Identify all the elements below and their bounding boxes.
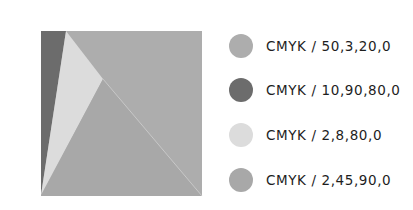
color-composition — [0, 0, 230, 210]
legend-label-4: CMYK / 2,45,90,0 — [266, 172, 391, 188]
legend-label-2: CMYK / 10,90,80,0 — [266, 82, 401, 98]
legend-item-1: CMYK / 50,3,20,0 — [229, 33, 391, 59]
color-swatch-3 — [229, 123, 253, 147]
legend-label-1: CMYK / 50,3,20,0 — [266, 38, 391, 54]
legend-label-3: CMYK / 2,8,80,0 — [266, 127, 382, 143]
color-swatch-2 — [229, 78, 253, 102]
color-swatch-4 — [229, 168, 253, 192]
legend-item-3: CMYK / 2,8,80,0 — [229, 122, 382, 148]
color-legend: CMYK / 50,3,20,0 CMYK / 10,90,80,0 CMYK … — [229, 0, 413, 210]
legend-item-4: CMYK / 2,45,90,0 — [229, 167, 391, 193]
color-swatch-1 — [229, 34, 253, 58]
legend-item-2: CMYK / 10,90,80,0 — [229, 77, 401, 103]
